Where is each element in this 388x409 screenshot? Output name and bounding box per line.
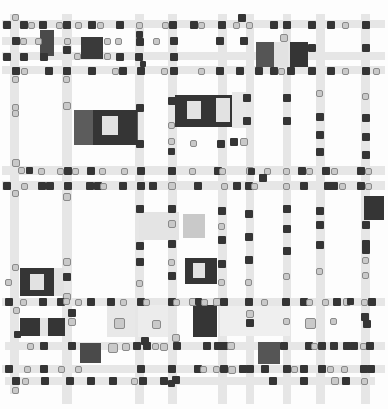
square-light <box>58 366 65 373</box>
square-dark <box>280 342 288 350</box>
square-dark <box>190 21 198 29</box>
square-light <box>280 34 288 42</box>
square-dark <box>87 298 95 306</box>
square-light <box>201 299 208 306</box>
square-dark <box>136 31 143 38</box>
square-light <box>75 299 82 306</box>
square-light <box>20 299 27 306</box>
square-light <box>63 102 71 110</box>
square-light <box>251 183 258 190</box>
square-light <box>283 318 290 325</box>
square-light <box>104 53 111 60</box>
square-light <box>361 299 368 306</box>
square-dark <box>173 342 181 350</box>
square-light <box>22 378 29 385</box>
square-light <box>75 22 82 29</box>
square-light <box>342 22 349 29</box>
inner-block <box>187 101 201 119</box>
square-dark <box>116 53 124 61</box>
square-dark <box>357 182 365 190</box>
square-dark <box>362 246 370 254</box>
square-dark <box>330 182 338 190</box>
square-light <box>121 168 128 175</box>
square-dark <box>316 241 324 249</box>
square-light <box>21 68 28 75</box>
square-dark <box>39 298 47 306</box>
square-dark <box>40 342 48 350</box>
square-dark <box>87 167 95 175</box>
square-light <box>152 320 161 329</box>
square-light <box>322 299 329 306</box>
square-dark <box>168 365 176 373</box>
square-dark <box>363 320 371 328</box>
square-dark <box>137 67 145 75</box>
square-dark <box>63 67 71 75</box>
square-dark <box>362 21 370 29</box>
square-dark <box>316 131 324 139</box>
square-light <box>161 68 168 75</box>
square-dark <box>136 258 144 266</box>
square-dark <box>240 37 248 45</box>
square-dark <box>238 14 246 22</box>
square-light <box>365 183 372 190</box>
square-dark <box>20 21 28 29</box>
square-dark <box>236 67 244 75</box>
square-dark <box>300 182 308 190</box>
square-dark <box>136 242 144 250</box>
square-dark <box>318 365 326 373</box>
square-dark <box>362 44 370 52</box>
square-dark <box>283 205 291 213</box>
square-dark <box>40 365 48 373</box>
square-dark <box>41 377 49 385</box>
square-dark <box>220 298 228 306</box>
square-light <box>283 168 290 175</box>
square-dark <box>5 365 13 373</box>
square-light <box>100 183 107 190</box>
square-dark <box>135 53 143 61</box>
square-dark <box>170 67 178 75</box>
square-dark <box>137 365 145 373</box>
square-light <box>362 257 369 264</box>
square-dark <box>322 167 330 175</box>
square-light <box>56 22 63 29</box>
square-dark <box>217 140 225 148</box>
square-dark <box>248 168 255 175</box>
square-dark <box>119 182 127 190</box>
square-light <box>227 342 235 350</box>
square-light <box>246 22 253 29</box>
square-light <box>341 366 348 373</box>
color-block <box>274 42 288 67</box>
square-light <box>168 259 175 266</box>
color-block <box>220 306 290 336</box>
square-dark <box>46 182 54 190</box>
square-light <box>72 168 79 175</box>
square-light <box>12 110 19 117</box>
square-light <box>21 183 28 190</box>
square-light <box>63 258 71 266</box>
square-light <box>316 90 323 97</box>
square-dark <box>38 182 46 190</box>
square-light <box>12 76 19 83</box>
square-dark <box>316 221 324 229</box>
square-dark <box>216 67 224 75</box>
square-dark <box>246 365 254 373</box>
square-dark <box>368 298 376 306</box>
square-light <box>189 168 196 175</box>
horizontal-stripe <box>2 52 385 60</box>
square-dark <box>149 182 157 190</box>
square-light <box>245 279 252 286</box>
square-light <box>57 168 64 175</box>
square-dark <box>245 298 253 306</box>
square-dark <box>64 167 72 175</box>
square-light <box>200 366 207 373</box>
square-dark <box>270 21 278 29</box>
square-dark <box>246 319 254 327</box>
square-light <box>283 273 290 280</box>
square-light <box>219 168 226 175</box>
square-light <box>213 366 220 373</box>
square-light <box>120 299 127 306</box>
square-light <box>331 377 339 385</box>
square-dark <box>194 182 202 190</box>
square-light <box>218 223 225 230</box>
square-light <box>12 159 20 167</box>
